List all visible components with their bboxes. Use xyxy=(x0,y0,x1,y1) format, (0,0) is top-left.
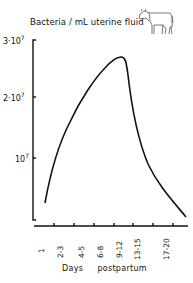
x-tick-label: 4-5 xyxy=(77,246,86,258)
y-tick-label: 2·10 xyxy=(3,94,21,103)
y-tick-exponent: 7 xyxy=(21,34,25,41)
x-tick-label: 1 xyxy=(37,248,46,253)
x-tick-label: 6-8 xyxy=(96,246,105,258)
y-tick-exponent: 7 xyxy=(21,91,25,98)
data-line xyxy=(45,57,186,217)
x-tick-label: 9-12 xyxy=(115,241,124,258)
y-tick-exponent: 7 xyxy=(25,152,29,159)
y-tick-1e7: 107 xyxy=(15,152,29,164)
y-tick-2e7: 2·107 xyxy=(3,91,25,103)
x-tick-label: 13-15 xyxy=(133,238,142,260)
y-tick-label: 3·10 xyxy=(3,37,21,46)
y-tick-3e7: 3·107 xyxy=(3,34,25,46)
y-tick-label: 10 xyxy=(15,155,25,164)
y-axis xyxy=(33,40,36,220)
x-axis-label: Days postpartum xyxy=(62,264,147,273)
x-tick-label: 2-3 xyxy=(56,246,65,258)
x-tick-label: 17-20 xyxy=(162,238,171,260)
